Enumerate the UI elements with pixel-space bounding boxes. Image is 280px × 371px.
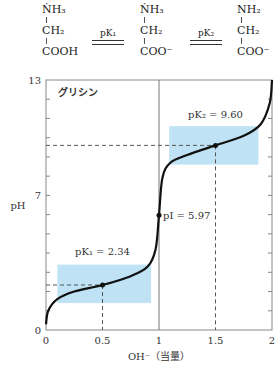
x-tick-label: 0.5 [95, 335, 111, 346]
titration-chart: 071300.511.52OH⁻（当量）pHグリシンpK₁ = 2.34pI =… [0, 0, 280, 371]
x-tick-label: 1.5 [208, 335, 224, 346]
x-tick-label: 1 [156, 335, 162, 346]
x-axis-label: OH⁻（当量） [128, 350, 190, 362]
y-axis-label: pH [10, 200, 25, 211]
pk1-label: pK₁ = 2.34 [75, 246, 130, 257]
chart-title: グリシン [58, 86, 98, 98]
y-tick-label: 0 [35, 325, 41, 336]
y-tick-label: 7 [35, 190, 41, 201]
annotation-point [100, 283, 105, 288]
pi-label: pI = 5.97 [163, 210, 210, 221]
pk2-label: pK₂ = 9.60 [188, 109, 243, 120]
x-tick-label: 0 [43, 335, 49, 346]
annotation-point [213, 143, 218, 148]
y-tick-label: 13 [28, 75, 41, 86]
annotation-point [157, 213, 162, 218]
x-tick-label: 2 [269, 335, 275, 346]
